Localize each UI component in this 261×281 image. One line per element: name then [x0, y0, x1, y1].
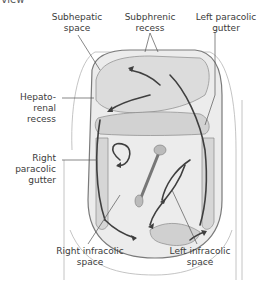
- descending-colon: [202, 138, 214, 229]
- mesentery-node-lower: [135, 195, 143, 207]
- label-left-infracolic-space: Left infracolic space: [155, 246, 245, 268]
- peritoneal-spaces-diagram: [0, 0, 261, 281]
- label-right-infracolic-space: Right infracolic space: [45, 246, 135, 268]
- label-subhepatic-space: Subhepatic space: [42, 12, 112, 34]
- transverse-colon: [95, 112, 209, 136]
- label-left-paracolic-gutter: Left paracolic gutter: [188, 12, 261, 34]
- mesentery-node-upper: [154, 145, 166, 155]
- label-right-paracolic-gutter: Right paracolic gutter: [0, 153, 56, 186]
- label-subphrenic-recess: Subphrenic recess: [115, 12, 185, 34]
- label-hepatorenal-recess: Hepato- renal recess: [0, 92, 56, 125]
